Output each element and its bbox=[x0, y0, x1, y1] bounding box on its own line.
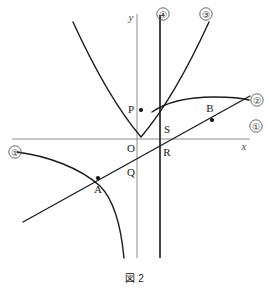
figure-container: x y O P Q R S A B ① ① ② ③ bbox=[0, 0, 269, 293]
curve-label-text-1-left: ① bbox=[11, 148, 19, 158]
point-label-a: A bbox=[94, 183, 102, 195]
parabola-curve-3 bbox=[73, 22, 209, 137]
hyperbola-left-branch-1 bbox=[17, 152, 124, 258]
figure-caption: 図 2 bbox=[0, 270, 269, 285]
figure-graph: x y O P Q R S A B ① ① ② ③ bbox=[0, 0, 269, 293]
point-dot-a bbox=[96, 176, 100, 180]
curve-label-text-4: ④ bbox=[159, 10, 167, 20]
curve-label-line-2: ② bbox=[251, 94, 263, 106]
curve-label-text-3: ③ bbox=[202, 10, 210, 20]
curve-label-hyperbola-right: ① bbox=[250, 120, 262, 132]
curve-label-text-2: ② bbox=[253, 96, 261, 106]
y-axis-label: y bbox=[128, 11, 134, 23]
point-label-q: Q bbox=[127, 166, 135, 178]
point-label-b: B bbox=[206, 102, 213, 114]
curve-label-text-1-right: ① bbox=[252, 122, 260, 132]
point-label-s: S bbox=[164, 123, 170, 135]
point-label-p: P bbox=[128, 103, 134, 115]
axes-group bbox=[12, 14, 250, 258]
point-dot-p bbox=[139, 108, 143, 112]
curve-label-parabola-3: ③ bbox=[200, 8, 212, 20]
point-dot-b bbox=[210, 118, 214, 122]
point-label-origin: O bbox=[127, 142, 135, 154]
point-label-r: R bbox=[163, 146, 171, 158]
curve-label-vertical-4: ④ bbox=[157, 8, 169, 20]
x-axis-label: x bbox=[241, 140, 247, 152]
